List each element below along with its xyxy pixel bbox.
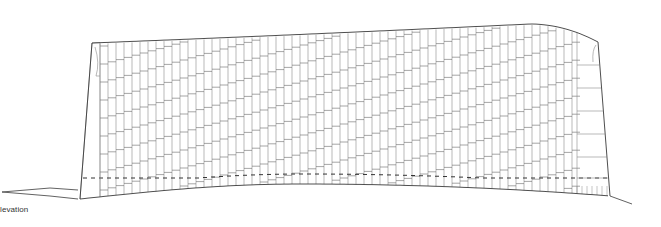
- end-bays: [80, 33, 608, 199]
- elevation-drawing: [0, 0, 661, 227]
- elevation-caption: levation: [0, 205, 28, 214]
- facade-mullions: [100, 25, 572, 197]
- ground-line: [2, 188, 632, 204]
- facade-outline: [80, 24, 610, 199]
